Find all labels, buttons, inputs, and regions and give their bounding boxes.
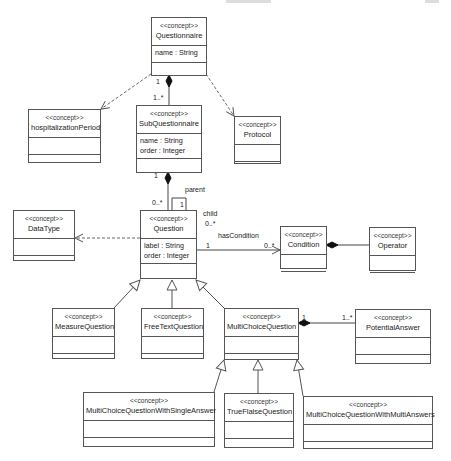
class-name: hospitalizationPeriod (31, 122, 98, 134)
class-operator[interactable]: <<concept>> Operator (369, 227, 416, 271)
attribute: name : String (140, 136, 198, 146)
attributes-compartment (29, 138, 100, 155)
class-multi-choice-question[interactable]: <<concept>> MultiChoiceQuestion (224, 308, 299, 360)
class-header: <<concept>> Question (141, 211, 196, 239)
class-header: <<concept>> FreeTextQuestion (142, 309, 203, 337)
operations-compartment (235, 162, 280, 172)
operations-compartment (225, 439, 293, 449)
operations-compartment (14, 256, 74, 266)
attributes-compartment (14, 239, 74, 256)
class-hospitalization-period[interactable]: <<concept>> hospitalizationPeriod (28, 109, 101, 163)
attributes-compartment (235, 145, 280, 162)
attributes-compartment (281, 255, 326, 272)
class-header: <<concept>> PotentialAnswer (356, 310, 430, 338)
class-multi-choice-single-answer[interactable]: <<concept>> MultiChoiceQuestionWithSingl… (83, 392, 215, 447)
class-header: <<concept>> DataType (14, 211, 74, 239)
attribute: name : String (155, 48, 203, 58)
cropped-page-number (425, 0, 439, 3)
attributes-compartment (225, 422, 293, 439)
operations-compartment (141, 264, 196, 278)
operations-compartment (142, 354, 203, 364)
operations-compartment (84, 438, 214, 448)
attributes-compartment: label : String order : Integer (141, 239, 196, 264)
class-name: SubQuestionnaire (139, 118, 199, 130)
attributes-compartment (84, 421, 214, 438)
multiplicity-label: 0..* (152, 199, 163, 206)
stereotype-label: <<concept>> (139, 109, 199, 118)
multiplicity-label: 1 (156, 78, 160, 85)
stereotype-label: <<concept>> (86, 396, 212, 405)
multiplicity-label: 1 (206, 242, 210, 249)
operations-compartment (225, 354, 298, 364)
class-name: Condition (283, 239, 324, 251)
class-header: <<concept>> TrueFlalseQuestion (225, 394, 293, 422)
multiplicity-label: 1 (180, 201, 184, 208)
class-header: <<concept>> MultiChoiceQuestionWithMulti… (304, 397, 432, 425)
operations-compartment (281, 272, 326, 282)
attributes-compartment (225, 337, 298, 354)
attribute: label : String (144, 241, 193, 251)
stereotype-label: <<concept>> (306, 400, 430, 409)
stereotype-label: <<concept>> (237, 120, 278, 129)
class-name: MultiChoiceQuestionWithMultiAnswers (306, 409, 430, 421)
operations-compartment (304, 442, 432, 452)
class-questionnaire[interactable]: <<concept>> Questionnaire name : String (151, 17, 207, 76)
multiplicity-label: 1 (154, 172, 158, 179)
stereotype-label: <<concept>> (55, 312, 112, 321)
multiplicity-label: 1..* (153, 94, 164, 101)
class-name: MeasureQuestion (55, 321, 112, 333)
role-label-child: child (203, 210, 217, 217)
operations-compartment (53, 354, 114, 364)
stereotype-label: <<concept>> (372, 231, 413, 240)
class-name: TrueFlalseQuestion (227, 406, 291, 418)
attributes-compartment (304, 425, 432, 442)
multiplicity-label: 0..* (205, 220, 216, 227)
attributes-compartment (370, 256, 415, 273)
class-question[interactable]: <<concept>> Question label : String orde… (140, 210, 197, 279)
multiplicity-label: 1 (302, 314, 306, 321)
stereotype-label: <<concept>> (358, 313, 428, 322)
class-name: Questionnaire (154, 30, 204, 42)
attribute: order : Integer (144, 251, 193, 261)
class-header: <<concept>> Condition (281, 227, 326, 255)
class-data-type[interactable]: <<concept>> DataType (13, 210, 75, 261)
role-label-parent: parent (185, 186, 205, 193)
operations-compartment (152, 63, 206, 75)
class-header: <<concept>> hospitalizationPeriod (29, 110, 100, 138)
cropped-header-text (226, 0, 271, 3)
stereotype-label: <<concept>> (227, 397, 291, 406)
class-measure-question[interactable]: <<concept>> MeasureQuestion (52, 308, 115, 359)
class-multi-choice-multi-answers[interactable]: <<concept>> MultiChoiceQuestionWithMulti… (303, 396, 433, 449)
class-free-text-question[interactable]: <<concept>> FreeTextQuestion (141, 308, 204, 359)
class-condition[interactable]: <<concept>> Condition (280, 226, 327, 269)
class-name: DataType (16, 223, 72, 235)
class-name: FreeTextQuestion (144, 321, 201, 333)
operations-compartment (29, 155, 100, 165)
multiplicity-label: 0..* (264, 242, 275, 249)
association-label-has-condition: hasCondition (218, 232, 259, 239)
class-name: PotentialAnswer (358, 322, 428, 334)
class-header: <<concept>> SubQuestionnaire (137, 106, 201, 134)
attributes-compartment: name : String order : Integer (137, 134, 201, 159)
class-protocol[interactable]: <<concept>> Protocol (234, 116, 281, 164)
class-name: Question (143, 223, 194, 235)
stereotype-label: <<concept>> (283, 230, 324, 239)
class-name: Protocol (237, 129, 278, 141)
class-sub-questionnaire[interactable]: <<concept>> SubQuestionnaire name : Stri… (136, 105, 202, 173)
class-header: <<concept>> Operator (370, 228, 415, 256)
operations-compartment (370, 273, 415, 283)
multiplicity-label: 1..* (342, 314, 353, 321)
attributes-compartment (53, 337, 114, 354)
stereotype-label: <<concept>> (154, 21, 204, 30)
operations-compartment (137, 159, 201, 172)
class-true-false-question[interactable]: <<concept>> TrueFlalseQuestion (224, 393, 294, 448)
stereotype-label: <<concept>> (16, 214, 72, 223)
attributes-compartment (356, 338, 430, 355)
class-header: <<concept>> MeasureQuestion (53, 309, 114, 337)
stereotype-label: <<concept>> (31, 113, 98, 122)
operations-compartment (356, 355, 430, 365)
class-header: <<concept>> MultiChoiceQuestion (225, 309, 298, 337)
stereotype-label: <<concept>> (143, 214, 194, 223)
class-potential-answer[interactable]: <<concept>> PotentialAnswer (355, 309, 431, 364)
attributes-compartment (142, 337, 203, 354)
